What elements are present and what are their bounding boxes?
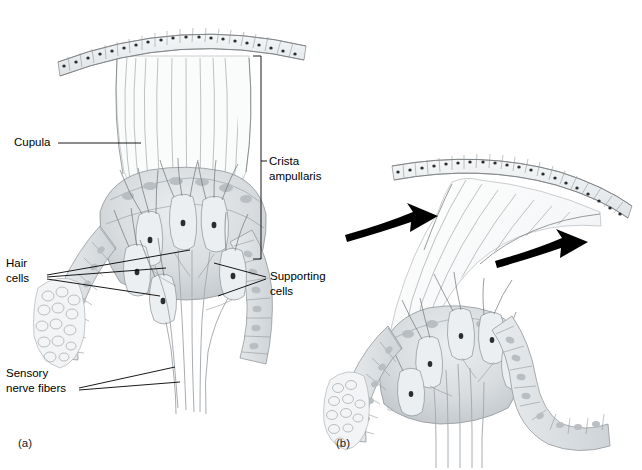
sensory-nerve-fibers-label-line2: nerve fibers [6, 382, 66, 394]
sensory-nerve-fibers-label-line1: Sensory [6, 367, 48, 379]
anatomy-illustration: Cupula Crista ampullaris Hair cells Supp… [0, 0, 642, 470]
hair-cells-label-line2: cells [6, 272, 29, 284]
crista-ampullaris-label-line1: Crista [269, 155, 300, 167]
sensory-nerve-fibers-leader-1 [79, 367, 175, 388]
panel-b-group [324, 154, 632, 468]
hair-cells-label-line1: Hair [6, 257, 27, 269]
supporting-cells-label-line2: cells [270, 285, 293, 297]
figure-root: Cupula Crista ampullaris Hair cells Supp… [0, 0, 642, 470]
panel-letter-a: (a) [18, 437, 32, 449]
supporting-cells-label-line1: Supporting [270, 270, 326, 282]
panel-a-group [34, 28, 307, 414]
crista-ampullaris-label-line2: ampullaris [269, 170, 322, 182]
cupula-label-text: Cupula [14, 136, 51, 148]
panel-letter-b: (b) [336, 437, 350, 449]
sensory-nerve-fibers-leader-2 [79, 382, 180, 390]
label-sensory-nerve-fibers: Sensory nerve fibers [6, 367, 180, 394]
